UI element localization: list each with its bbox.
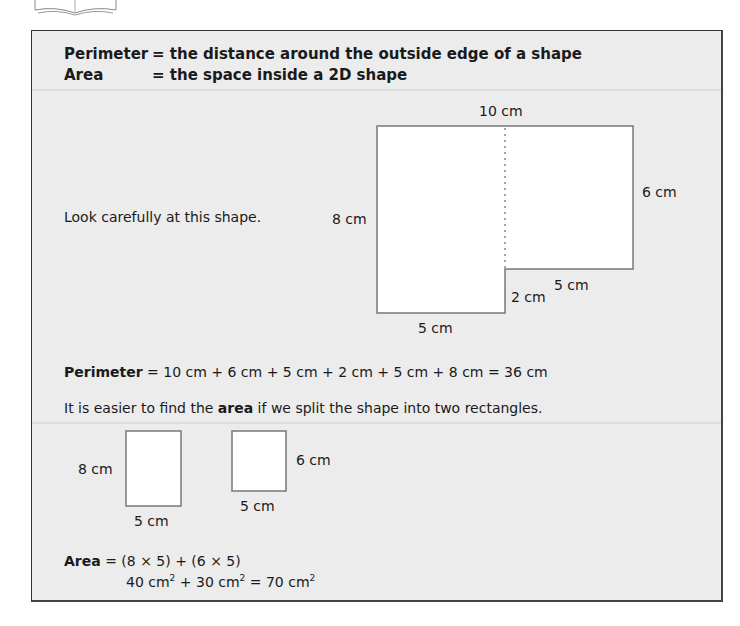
split-sentence-end: if we split the shape into two rectangle… (253, 400, 542, 416)
rect1-height-label: 8 cm (78, 461, 113, 477)
area-equation-line1: Area = (8 × 5) + (6 × 5) (64, 553, 241, 569)
divider (32, 422, 721, 424)
label-top: 10 cm (479, 103, 523, 119)
area-term: + 30 cm (175, 574, 239, 590)
label-inner-vertical: 2 cm (511, 289, 546, 305)
label-bottom: 5 cm (418, 320, 453, 336)
rect2-height-label: 6 cm (296, 452, 331, 468)
area-label: Area (64, 553, 101, 569)
rectangle-1 (126, 431, 181, 506)
instruction-text: Look carefully at this shape. (64, 209, 261, 225)
area-result: = 70 cm (245, 574, 309, 590)
rect1-width-label: 5 cm (134, 513, 169, 529)
rectangle-2 (232, 431, 286, 491)
rect2-width-label: 5 cm (240, 498, 275, 514)
label-left: 8 cm (332, 211, 367, 227)
split-sentence-bold: area (218, 400, 253, 416)
superscript: 2 (310, 573, 316, 583)
split-sentence-start: It is easier to find the (64, 400, 218, 416)
area-term: 40 cm (126, 574, 170, 590)
perimeter-equation: Perimeter = 10 cm + 6 cm + 5 cm + 2 cm +… (64, 364, 548, 380)
label-inner-horizontal: 5 cm (554, 277, 589, 293)
perimeter-expression: = 10 cm + 6 cm + 5 cm + 2 cm + 5 cm + 8 … (143, 364, 548, 380)
label-right: 6 cm (642, 184, 677, 200)
split-sentence: It is easier to find the area if we spli… (64, 400, 542, 416)
book-icon (33, 0, 118, 16)
perimeter-label: Perimeter (64, 364, 143, 380)
area-equation-line2: 40 cm2 + 30 cm2 = 70 cm2 (126, 573, 315, 590)
area-expression: = (8 × 5) + (6 × 5) (101, 553, 241, 569)
info-panel: Perimeter = the distance around the outs… (31, 30, 723, 602)
